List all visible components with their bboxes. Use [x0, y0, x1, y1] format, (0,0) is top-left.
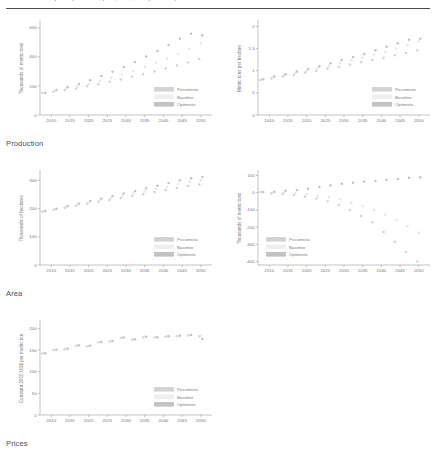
svg-text:Optimistic: Optimistic	[177, 102, 197, 107]
plot-yield[interactable]: 0.511.5220102015202020252030203520402045…	[218, 12, 436, 142]
svg-text:Pessimistic: Pessimistic	[395, 87, 417, 92]
plot-area[interactable]: 0100200300201020152020202520302035204020…	[0, 162, 218, 292]
svg-text:2045: 2045	[395, 118, 405, 123]
svg-text:2040: 2040	[159, 118, 169, 123]
svg-text:2045: 2045	[177, 268, 187, 273]
svg-text:Baseline: Baseline	[177, 395, 194, 400]
svg-text:2020: 2020	[84, 268, 94, 273]
svg-text:Pessimistic: Pessimistic	[289, 237, 311, 242]
svg-text:2025: 2025	[320, 118, 330, 123]
svg-text:0: 0	[34, 113, 37, 118]
svg-text:.5: .5	[251, 90, 255, 95]
svg-text:2015: 2015	[65, 268, 75, 273]
svg-text:2050: 2050	[414, 118, 424, 123]
svg-text:100: 100	[247, 173, 255, 178]
svg-text:Metric tons per hectare: Metric tons per hectare	[237, 45, 242, 92]
svg-text:2015: 2015	[65, 418, 75, 423]
svg-text:100: 100	[29, 234, 37, 239]
svg-text:2015: 2015	[283, 118, 293, 123]
svg-text:600: 600	[29, 25, 37, 30]
svg-text:Baseline: Baseline	[177, 95, 194, 100]
chart-cell-production: 0200400600201020152020202520302035204020…	[0, 12, 218, 164]
svg-text:2035: 2035	[358, 268, 368, 273]
svg-text:2025: 2025	[102, 118, 112, 123]
svg-text:50: 50	[32, 391, 37, 396]
svg-text:2010: 2010	[264, 118, 274, 123]
svg-text:0: 0	[34, 263, 37, 268]
header-divider	[6, 8, 430, 9]
chart-caption-area: Area	[6, 289, 22, 298]
svg-text:200: 200	[29, 84, 37, 89]
svg-text:2035: 2035	[358, 118, 368, 123]
svg-text:2040: 2040	[377, 268, 387, 273]
plot-prices[interactable]: 0501001502002010201520202025203020352040…	[0, 312, 218, 442]
svg-text:Optimistic: Optimistic	[177, 252, 197, 257]
svg-text:Pessimistic: Pessimistic	[177, 387, 199, 392]
svg-text:-100: -100	[246, 207, 255, 212]
svg-text:2030: 2030	[339, 268, 349, 273]
svg-text:-300: -300	[246, 242, 255, 247]
svg-text:2: 2	[252, 24, 255, 29]
svg-text:2020: 2020	[302, 268, 312, 273]
svg-text:-200: -200	[246, 225, 255, 230]
chart-cell-area: 0100200300201020152020202520302035204020…	[0, 162, 218, 314]
svg-text:Baseline: Baseline	[289, 245, 306, 250]
svg-text:200: 200	[29, 326, 37, 331]
svg-text:2040: 2040	[159, 418, 169, 423]
svg-text:2010: 2010	[46, 268, 56, 273]
svg-text:Baseline: Baseline	[177, 245, 194, 250]
svg-text:1.5: 1.5	[248, 46, 255, 51]
svg-text:2020: 2020	[302, 118, 312, 123]
svg-text:200: 200	[29, 206, 37, 211]
svg-text:2015: 2015	[283, 268, 293, 273]
svg-text:2020: 2020	[84, 418, 94, 423]
svg-text:Thousands of metric tons: Thousands of metric tons	[237, 192, 242, 244]
svg-text:2045: 2045	[177, 118, 187, 123]
svg-text:2040: 2040	[377, 118, 387, 123]
svg-text:2035: 2035	[140, 118, 150, 123]
chart-cell-prices: 0501001502002010201520202025203020352040…	[0, 312, 218, 464]
svg-text:Thousands of metric tons: Thousands of metric tons	[19, 42, 24, 94]
svg-text:2050: 2050	[196, 118, 206, 123]
svg-text:2015: 2015	[65, 118, 75, 123]
svg-text:Pessimistic: Pessimistic	[177, 237, 199, 242]
plot-production[interactable]: 0200400600201020152020202520302035204020…	[0, 12, 218, 142]
svg-text:150: 150	[29, 348, 37, 353]
svg-text:2035: 2035	[140, 418, 150, 423]
svg-text:2045: 2045	[395, 268, 405, 273]
svg-text:Baseline: Baseline	[395, 95, 412, 100]
svg-text:2030: 2030	[121, 268, 131, 273]
svg-text:2030: 2030	[121, 118, 131, 123]
svg-text:2010: 2010	[264, 268, 274, 273]
svg-text:2025: 2025	[320, 268, 330, 273]
plot-net-exports[interactable]: 1000-100-200-300-40020102015202020252030…	[218, 162, 436, 292]
svg-text:2010: 2010	[46, 418, 56, 423]
svg-text:Optimistic: Optimistic	[289, 252, 309, 257]
svg-text:1: 1	[252, 68, 255, 73]
svg-text:100: 100	[29, 369, 37, 374]
svg-text:Thousands of hectares: Thousands of hectares	[19, 194, 24, 241]
svg-text:-400: -400	[246, 259, 255, 264]
svg-text:2025: 2025	[102, 418, 112, 423]
svg-text:2050: 2050	[196, 268, 206, 273]
svg-text:2010: 2010	[46, 118, 56, 123]
svg-text:300: 300	[29, 178, 37, 183]
svg-text:2020: 2020	[84, 118, 94, 123]
svg-text:0: 0	[34, 413, 37, 418]
chart-cell-net-exports: 1000-100-200-300-40020102015202020252030…	[218, 162, 436, 314]
svg-text:2025: 2025	[102, 268, 112, 273]
svg-text:Optimistic: Optimistic	[177, 402, 197, 407]
svg-text:2050: 2050	[414, 268, 424, 273]
svg-text:0: 0	[252, 190, 255, 195]
svg-text:2035: 2035	[140, 268, 150, 273]
svg-text:2030: 2030	[339, 118, 349, 123]
svg-text:Constant 2000 US$ per metric t: Constant 2000 US$ per metric ton	[19, 333, 24, 403]
chart-caption-prices: Prices	[6, 439, 28, 448]
svg-text:400: 400	[29, 54, 37, 59]
svg-text:Pessimistic: Pessimistic	[177, 87, 199, 92]
svg-text:2040: 2040	[159, 268, 169, 273]
header-title: Projected production, yield, area, net e…	[46, 0, 262, 1]
svg-text:2030: 2030	[121, 418, 131, 423]
chart-caption-production: Production	[6, 139, 43, 148]
chart-cell-yield: 0.511.5220102015202020252030203520402045…	[218, 12, 436, 164]
